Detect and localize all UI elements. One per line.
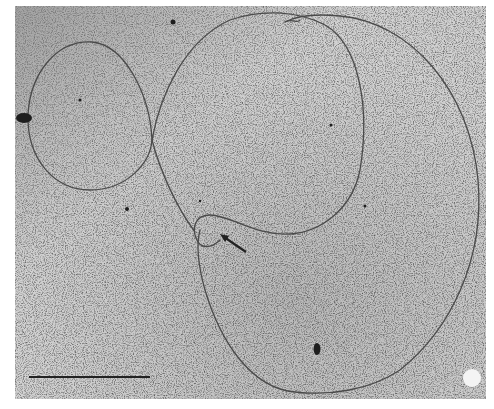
particle	[171, 20, 176, 25]
particle	[330, 124, 333, 127]
particle	[16, 113, 32, 123]
micrograph-image	[15, 6, 486, 399]
particle	[125, 207, 129, 211]
particle	[314, 343, 321, 355]
micrograph-canvas	[15, 6, 486, 399]
particle	[79, 99, 82, 102]
particle	[199, 200, 201, 202]
particle	[364, 205, 367, 208]
bright-spot	[463, 369, 481, 387]
